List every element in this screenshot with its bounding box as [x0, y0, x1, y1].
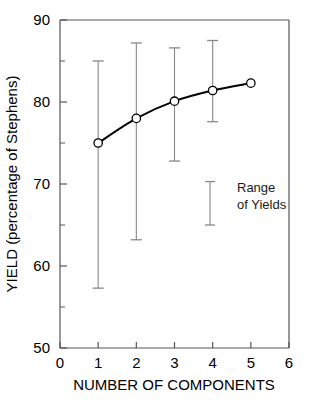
range-of-yields-sample-bar [205, 182, 215, 225]
yield-vs-components-line-chart: 5060708090 0123456 Range of Yields NUMBE… [0, 0, 319, 402]
chart-container: 5060708090 0123456 Range of Yields NUMBE… [0, 0, 319, 402]
data-point-marker [170, 97, 178, 105]
x-tick-label: 1 [94, 354, 102, 371]
y-axis-title: YIELD (percentage of Stephens) [3, 76, 20, 293]
x-tick-label: 0 [56, 354, 64, 371]
data-point-marker [247, 79, 255, 87]
data-point-marker [94, 139, 102, 147]
x-tick-label: 6 [285, 354, 293, 371]
y-tick-label: 90 [33, 11, 50, 28]
y-axis-tick-labels: 5060708090 [33, 11, 50, 356]
legend-label-line1: Range [237, 180, 275, 195]
x-axis-title: NUMBER OF COMPONENTS [73, 376, 275, 393]
y-tick-label: 50 [33, 339, 50, 356]
x-axis-tick-labels: 0123456 [56, 354, 293, 371]
x-axis-ticks [60, 342, 289, 348]
y-tick-label: 60 [33, 257, 50, 274]
x-tick-label: 5 [247, 354, 255, 371]
y-tick-label: 80 [33, 93, 50, 110]
y-axis-ticks [60, 20, 67, 348]
y-tick-label: 70 [33, 175, 50, 192]
x-tick-label: 4 [208, 354, 216, 371]
x-tick-label: 2 [132, 354, 140, 371]
legend-label-line2: of Yields [237, 197, 287, 212]
x-tick-label: 3 [170, 354, 178, 371]
error-bars-group [93, 41, 219, 289]
data-point-marker [208, 86, 216, 94]
data-point-marker [132, 114, 140, 122]
